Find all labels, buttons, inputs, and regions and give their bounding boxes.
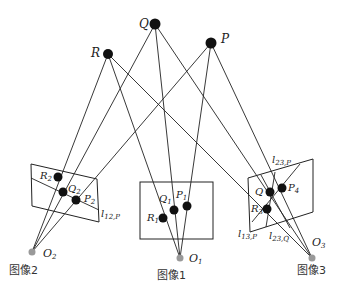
label-Q2: Q2 bbox=[68, 183, 81, 196]
image-point-P2 bbox=[72, 196, 81, 205]
label-O1: O1 bbox=[189, 252, 203, 266]
camera-center-O3 bbox=[309, 255, 316, 262]
image-point-Q3 bbox=[266, 188, 275, 197]
label-R1: R1 bbox=[146, 212, 159, 225]
camera-center-O1 bbox=[177, 255, 184, 262]
image-point-Q1 bbox=[170, 206, 179, 215]
label-P4: P4 bbox=[287, 182, 299, 195]
label-l23P: l23,P bbox=[272, 154, 291, 167]
label-P1: P1 bbox=[175, 189, 187, 202]
label-Q: Q bbox=[139, 17, 149, 31]
label-P: P bbox=[220, 32, 230, 46]
camera-center-O2 bbox=[29, 249, 36, 256]
epipolar-diagram: Q P R R2 Q2 P2 l12,P R1 Q1 P1 Q P4 R3 l2… bbox=[0, 0, 340, 292]
image-point-P4 bbox=[278, 184, 287, 193]
label-R: R bbox=[90, 46, 100, 60]
label-l12P: l12,P bbox=[101, 208, 120, 221]
label-P2: P2 bbox=[83, 193, 96, 206]
rays-camera-2 bbox=[32, 24, 211, 252]
label-O2: O2 bbox=[43, 247, 57, 261]
world-point-Q bbox=[150, 19, 161, 30]
world-point-R bbox=[103, 49, 113, 59]
label-R2: R2 bbox=[39, 170, 53, 183]
label-l13P: l13,P bbox=[238, 228, 257, 241]
caption-image-3: 图像3 bbox=[297, 264, 326, 277]
image-point-R1 bbox=[159, 214, 168, 223]
image-point-Q2 bbox=[59, 188, 68, 197]
label-R3: R3 bbox=[250, 203, 264, 216]
image-point-P1 bbox=[183, 202, 192, 211]
epipolar-line-23Q bbox=[266, 172, 275, 227]
world-point-P bbox=[206, 38, 217, 49]
label-Q3: Q bbox=[255, 186, 263, 197]
label-O3: O3 bbox=[312, 236, 326, 250]
image-point-R3 bbox=[263, 205, 272, 214]
image-point-R2 bbox=[54, 173, 63, 182]
caption-image-2: 图像2 bbox=[9, 264, 38, 277]
caption-image-1: 图像1 bbox=[157, 269, 186, 282]
